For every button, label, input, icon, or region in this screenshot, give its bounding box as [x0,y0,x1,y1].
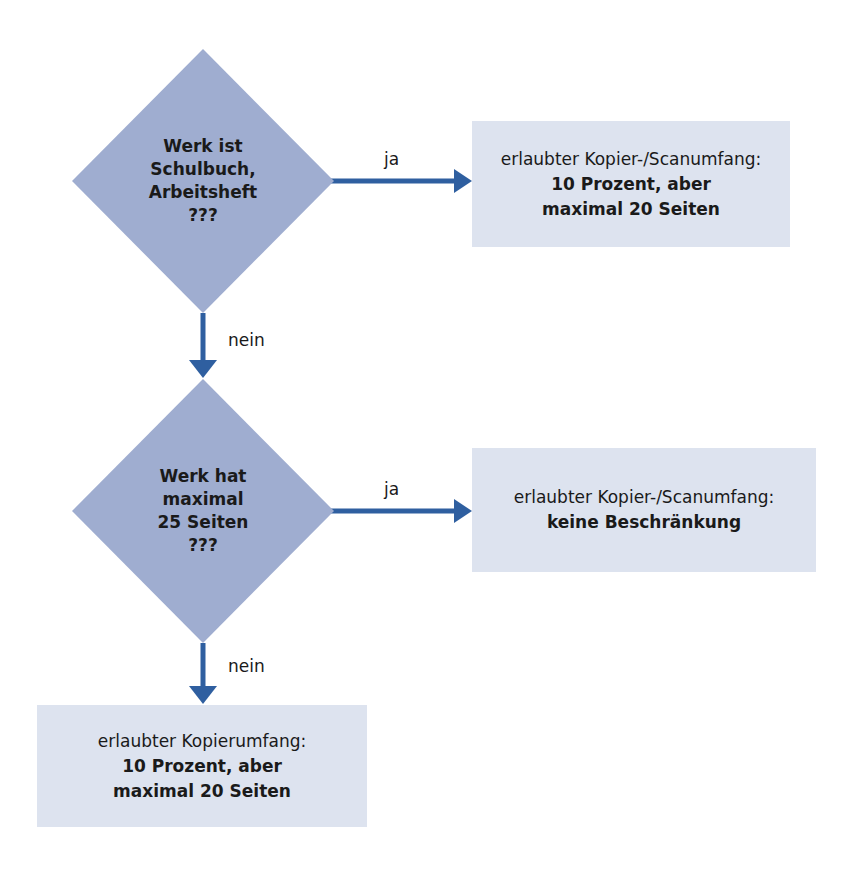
decision-2-line: Werk hat [160,465,247,488]
result-2-intro: erlaubter Kopier-/Scanumfang: [514,485,774,510]
decision-diamond-2: Werk hat maximal 25 Seiten ??? [72,379,334,643]
result-box-3: erlaubter Kopierumfang: 10 Prozent, aber… [37,705,367,827]
decision-1-line: Schulbuch, [150,158,255,181]
result-1-intro: erlaubter Kopier-/Scanumfang: [501,147,761,172]
edge-label-nein-1: nein [228,330,265,350]
decision-2-line: 25 Seiten [158,511,249,534]
decision-1-line: Arbeitsheft [149,181,257,204]
result-box-2: erlaubter Kopier-/Scanumfang: keine Besc… [472,448,816,572]
decision-1-line: ??? [188,204,218,227]
decision-2-line: ??? [188,534,218,557]
edge-label-nein-2: nein [228,656,265,676]
arrow-nein-1 [189,313,217,378]
result-3-intro: erlaubter Kopierumfang: [98,729,306,754]
arrow-nein-2 [189,643,217,704]
result-2-line: keine Beschränkung [547,510,741,535]
result-3-line: maximal 20 Seiten [113,779,291,804]
decision-text-1: Werk ist Schulbuch, Arbeitsheft ??? [72,49,334,313]
arrow-ja-1 [330,169,472,193]
decision-1-line: Werk ist [163,135,242,158]
result-box-1: erlaubter Kopier-/Scanumfang: 10 Prozent… [472,121,790,247]
result-1-line: maximal 20 Seiten [542,197,720,222]
arrow-ja-2 [330,499,472,523]
decision-text-2: Werk hat maximal 25 Seiten ??? [72,379,334,643]
decision-diamond-1: Werk ist Schulbuch, Arbeitsheft ??? [72,49,334,313]
result-3-line: 10 Prozent, aber [122,754,282,779]
result-1-line: 10 Prozent, aber [551,172,711,197]
edge-label-ja-2: ja [384,479,399,499]
edge-label-ja-1: ja [384,149,399,169]
decision-2-line: maximal [163,488,244,511]
